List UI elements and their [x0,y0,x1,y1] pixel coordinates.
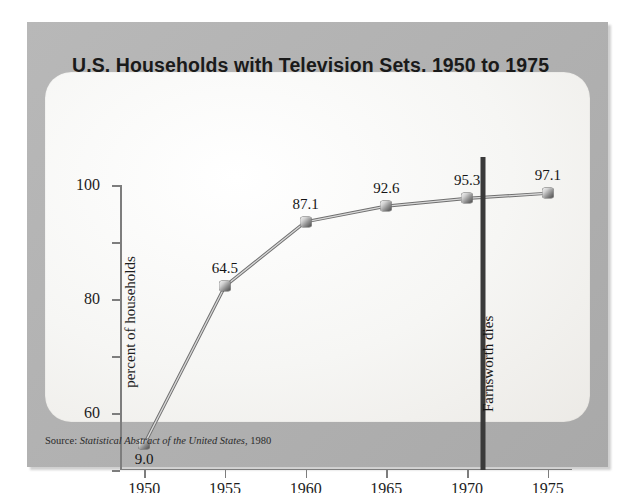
x-tick-label: 1975 [532,480,564,493]
x-tick: 1965 [386,470,388,478]
data-point-marker [462,193,473,203]
x-tick: 1950 [144,470,146,478]
data-point-value: 95.3 [454,172,480,189]
x-tick-label: 1960 [290,480,322,493]
data-point-value: 9.0 [135,451,154,468]
screenshot-root: U.S. Households with Television Sets, 19… [0,0,637,493]
annotation-vline [481,157,486,470]
y-tick: 100 [112,185,120,187]
data-point-value: 92.6 [373,180,399,197]
y-tick: 20 [112,413,120,415]
y-tick: 80 [112,242,120,244]
plot-panel: percent of households 020406080100 19501… [45,72,590,422]
x-tick: 1955 [225,470,227,478]
source-suffix: , 1980 [245,435,271,446]
figure-card: U.S. Households with Television Sets, 19… [27,22,608,467]
data-point-value: 97.1 [535,167,561,184]
data-line [120,185,572,470]
data-point-marker [542,188,553,198]
annotation-label: Farnsworth dies [480,316,497,412]
y-tick-label: 100 [76,176,100,194]
x-tick: 1975 [548,470,550,478]
axes: 020406080100 195019551960196519701975 9.… [120,185,572,470]
y-tick: 0 [112,470,120,472]
data-point-marker [381,201,392,211]
source-note: Source: Statistical Abstract of the Unit… [45,435,271,446]
data-point-value: 87.1 [293,196,319,213]
y-tick-label: 60 [84,404,100,422]
source-prefix: Source: [45,435,77,446]
data-point-marker [219,281,230,291]
x-tick-label: 1955 [209,480,241,493]
data-point-marker [300,217,311,227]
x-tick-label: 1950 [128,480,160,493]
x-tick: 1970 [467,470,469,478]
source-publication: Statistical Abstract of the United State… [80,435,245,446]
x-tick-label: 1970 [451,480,483,493]
y-tick-label: 80 [84,290,100,308]
x-tick: 1960 [306,470,308,478]
data-point-value: 64.5 [212,260,238,277]
y-tick: 40 [112,356,120,358]
x-tick-label: 1965 [370,480,402,493]
y-tick: 60 [112,299,120,301]
